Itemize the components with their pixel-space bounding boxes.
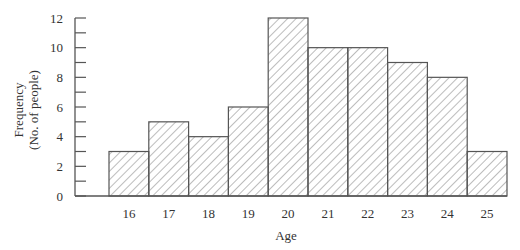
- y-tick-label: 12: [50, 11, 63, 26]
- bar-age-22: [348, 48, 388, 196]
- bar-age-16: [109, 152, 149, 197]
- x-tick-label: 17: [162, 206, 176, 221]
- bar-age-18: [189, 137, 229, 196]
- y-axis: 024681012: [50, 11, 86, 204]
- bar-age-20: [268, 18, 308, 196]
- x-tick-labels: 16171819202122232425: [122, 206, 493, 221]
- x-tick-label: 18: [202, 206, 215, 221]
- bar-age-21: [308, 48, 348, 196]
- y-axis-title: Frequency: [11, 82, 26, 137]
- x-tick-label: 23: [401, 206, 414, 221]
- bar-age-17: [149, 122, 189, 196]
- x-tick-label: 16: [122, 206, 136, 221]
- bar-age-19: [228, 107, 268, 196]
- y-tick-label: 8: [57, 70, 64, 85]
- y-axis-subtitle: (No. of people): [26, 70, 41, 150]
- y-tick-label: 10: [50, 40, 63, 55]
- x-tick-label: 19: [242, 206, 255, 221]
- x-tick-label: 21: [321, 206, 334, 221]
- x-tick-label: 25: [481, 206, 494, 221]
- y-tick-label: 4: [57, 129, 64, 144]
- y-tick-label: 6: [57, 100, 64, 115]
- bar-age-23: [388, 63, 428, 197]
- x-tick-label: 24: [441, 206, 455, 221]
- bar-age-25: [467, 152, 507, 197]
- y-tick-label: 2: [57, 159, 64, 174]
- x-tick-label: 22: [361, 206, 374, 221]
- x-axis-title: Age: [275, 228, 297, 243]
- bar-age-24: [427, 77, 467, 196]
- histogram-chart: 024681012 16171819202122232425 Age Frequ…: [0, 0, 520, 250]
- bars: [109, 18, 507, 196]
- x-tick-label: 20: [282, 206, 295, 221]
- y-tick-label: 0: [57, 189, 64, 204]
